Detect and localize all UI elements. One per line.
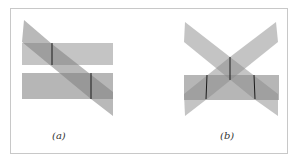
figure-canvas xyxy=(0,0,300,165)
oblique-plane xyxy=(22,20,113,116)
panel-b-label: (b) xyxy=(220,130,234,141)
panel-a-label: (a) xyxy=(52,130,66,141)
panel-a xyxy=(22,20,113,116)
panel-b xyxy=(184,22,279,116)
